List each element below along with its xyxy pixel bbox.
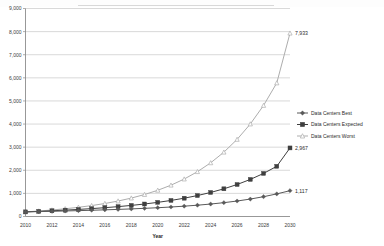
x-axis-title: Year bbox=[152, 233, 163, 239]
data-point-marker bbox=[288, 146, 292, 150]
data-point-marker bbox=[275, 164, 279, 168]
data-point-marker bbox=[143, 202, 147, 206]
y-axis-tick-label: 7,000 bbox=[9, 52, 22, 58]
data-point-marker bbox=[195, 194, 199, 198]
chart-container: 01,0002,0003,0004,0005,0006,0007,0008,00… bbox=[0, 0, 384, 246]
data-point-marker bbox=[275, 81, 279, 85]
x-axis-tick-label: 2014 bbox=[73, 222, 84, 228]
data-point-marker bbox=[169, 198, 173, 202]
data-point-marker bbox=[209, 190, 213, 194]
data-point-marker bbox=[156, 206, 160, 210]
series-end-label: 1,117 bbox=[295, 188, 308, 194]
data-point-marker bbox=[300, 111, 304, 115]
data-point-marker bbox=[262, 171, 266, 175]
series-end-label: 7,933 bbox=[295, 30, 308, 36]
series-data-centers-expected bbox=[24, 146, 293, 214]
data-point-marker bbox=[209, 202, 213, 206]
y-axis-tick-label: 3,000 bbox=[9, 144, 22, 150]
y-axis-tick-label: 6,000 bbox=[9, 75, 22, 81]
data-point-marker bbox=[156, 200, 160, 204]
y-axis-tick-label: 8,000 bbox=[9, 29, 22, 35]
legend-item-data-centers-expected[interactable]: Data Centers Expected bbox=[297, 121, 363, 127]
legend-label: Data Centers Worst bbox=[311, 133, 355, 139]
y-axis-tick-label: 5,000 bbox=[9, 98, 22, 104]
data-point-marker bbox=[235, 183, 239, 187]
x-axis-tick-label: 2010 bbox=[20, 222, 31, 228]
data-point-marker bbox=[222, 187, 226, 191]
legend-label: Data Centers Expected bbox=[311, 121, 363, 127]
x-axis-tick-label: 2018 bbox=[126, 222, 137, 228]
data-point-marker bbox=[300, 122, 304, 126]
x-axis-tick-label: 2022 bbox=[179, 222, 190, 228]
data-point-marker bbox=[182, 177, 186, 181]
y-axis-tick-label: 1,000 bbox=[9, 190, 22, 196]
series-data-centers-worst bbox=[23, 31, 292, 214]
x-axis-tick-label: 2020 bbox=[152, 222, 163, 228]
legend-label: Data Centers Best bbox=[311, 110, 352, 116]
legend-item-data-centers-best[interactable]: Data Centers Best bbox=[297, 110, 352, 116]
data-point-marker bbox=[248, 197, 252, 201]
data-point-marker bbox=[182, 204, 186, 208]
y-axis-tick-label: 4,000 bbox=[9, 121, 22, 127]
data-point-marker bbox=[222, 201, 226, 205]
y-axis-tick-label: 0 bbox=[19, 213, 22, 219]
y-axis-tick-label: 9,000 bbox=[9, 5, 22, 11]
x-axis-tick-label: 2030 bbox=[284, 222, 295, 228]
x-axis-tick-label: 2016 bbox=[99, 222, 110, 228]
x-axis-tick-label: 2012 bbox=[46, 222, 57, 228]
data-point-marker bbox=[195, 203, 199, 207]
data-point-marker bbox=[169, 205, 173, 209]
data-point-marker bbox=[288, 189, 292, 193]
x-axis-tick-label: 2028 bbox=[258, 222, 269, 228]
data-point-marker bbox=[142, 206, 146, 210]
series-end-label: 2,967 bbox=[295, 145, 308, 151]
line-chart: 01,0002,0003,0004,0005,0006,0007,0008,00… bbox=[0, 0, 384, 246]
y-axis-tick-label: 2,000 bbox=[9, 167, 22, 173]
data-point-marker bbox=[275, 192, 279, 196]
data-point-marker bbox=[235, 199, 239, 203]
x-axis-tick-label: 2026 bbox=[232, 222, 243, 228]
data-point-marker bbox=[248, 177, 252, 181]
x-axis-tick-label: 2024 bbox=[205, 222, 216, 228]
legend-item-data-centers-worst[interactable]: Data Centers Worst bbox=[297, 133, 355, 139]
data-point-marker bbox=[182, 196, 186, 200]
data-point-marker bbox=[261, 195, 265, 199]
